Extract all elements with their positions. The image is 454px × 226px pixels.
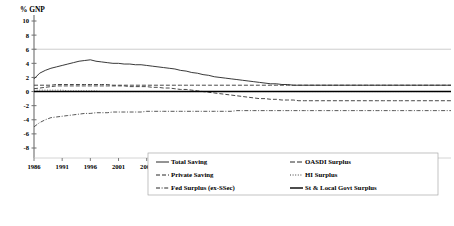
legend-label-oasdi-surplus: OASDI Surplus [305, 158, 351, 165]
y-tick-label--4: -4 [24, 116, 30, 123]
series-line-fed-surplus-ex-ssec [34, 111, 451, 127]
y-tick-label-10: 10 [22, 17, 29, 24]
y-axis-title: % GNP [20, 5, 45, 14]
y-tick-label--6: -6 [24, 130, 30, 137]
chart-container: -8-6-4-202468101986199119962001200620112… [0, 0, 454, 226]
series-line-private-saving [34, 85, 451, 86]
gnp-saving-line-chart: -8-6-4-202468101986199119962001200620112… [0, 0, 454, 226]
x-tick-label-1991: 1991 [56, 163, 69, 170]
series-line-total-saving [34, 60, 451, 85]
y-tick-label-6: 6 [26, 46, 30, 53]
y-tick-label-8: 8 [26, 32, 30, 39]
x-tick-label-1986: 1986 [27, 163, 41, 170]
legend-label-private-saving: Private Saving [171, 171, 214, 178]
legend-label-total-saving: Total Saving [171, 158, 208, 165]
y-tick-label-0: 0 [26, 88, 30, 95]
y-tick-label-2: 2 [26, 74, 30, 81]
y-tick-label--2: -2 [24, 102, 30, 109]
y-tick-label-4: 4 [26, 60, 30, 67]
y-tick-label--8: -8 [24, 144, 30, 151]
legend-label-hi-surplus: HI Surplus [305, 171, 338, 178]
x-tick-label-2001: 2001 [112, 163, 125, 170]
legend-label-fed-surplus-ex-ssec: Fed Surplus (ex-SSec) [171, 184, 235, 192]
legend-label-st-local-govt-surplus: St & Local Govt Surplus [305, 184, 377, 191]
series-line-oasdi-surplus [34, 86, 451, 101]
x-tick-label-1996: 1996 [84, 163, 98, 170]
